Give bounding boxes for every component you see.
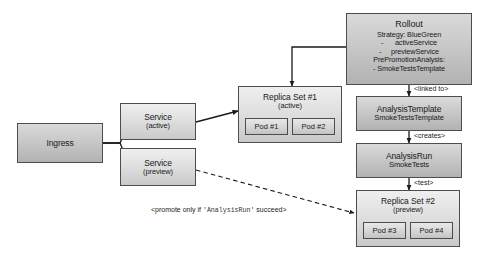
pod-2[interactable]: Pod #2 <box>292 118 335 135</box>
node-rollout-spec-smoke-tests-template: - SmokeTestsTemplate <box>373 65 445 74</box>
promote-condition-note: <promote only if 'AnalysisRun' succeed> <box>151 206 287 214</box>
pod-4[interactable]: Pod #4 <box>410 222 453 239</box>
pod-4-label: Pod #4 <box>420 226 444 235</box>
node-analysis-template[interactable]: AnalysisTemplate SmokeTestsTemplate <box>356 96 462 131</box>
diagram-canvas: Ingress Service (active) Service (previe… <box>0 0 479 257</box>
node-replica-set-1-subtitle: (active) <box>278 102 302 111</box>
edge-service-active-to-replica-set-1 <box>196 111 238 122</box>
node-analysis-run[interactable]: AnalysisRun SmokeTests <box>356 143 462 178</box>
node-rollout[interactable]: Rollout Strategy: BlueGreen - activeServ… <box>346 13 472 85</box>
edge-label-creates: <creates> <box>414 132 445 139</box>
pod-3-label: Pod #3 <box>373 226 397 235</box>
node-analysis-template-subtitle: SmokeTestsTemplate <box>374 114 443 123</box>
pod-1[interactable]: Pod #1 <box>245 118 288 135</box>
node-service-active-subtitle: (active) <box>146 122 170 131</box>
node-service-preview-subtitle: (preview) <box>143 168 173 177</box>
node-service-preview[interactable]: Service (preview) <box>120 148 196 186</box>
edge-label-test: <test> <box>414 179 433 186</box>
node-replica-set-2-subtitle: (preview) <box>393 206 423 215</box>
pod-3[interactable]: Pod #3 <box>363 222 406 239</box>
node-ingress-title: Ingress <box>46 138 73 148</box>
edge-label-linked-to: <linked to> <box>414 85 448 92</box>
pod-1-label: Pod #1 <box>255 122 279 131</box>
promote-note-suffix: succeed> <box>254 206 286 213</box>
node-ingress[interactable]: Ingress <box>17 123 103 163</box>
promote-note-analysisrun-ref: 'AnalysisRun' <box>203 207 254 214</box>
promote-note-prefix: <promote only if <box>151 206 203 213</box>
node-analysis-run-subtitle: SmokeTests <box>389 161 429 170</box>
pod-2-label: Pod #2 <box>302 122 326 131</box>
node-rollout-title: Rollout <box>395 19 422 30</box>
node-service-active[interactable]: Service (active) <box>120 103 196 140</box>
edge-rollout-to-replica-set-1 <box>292 47 346 86</box>
